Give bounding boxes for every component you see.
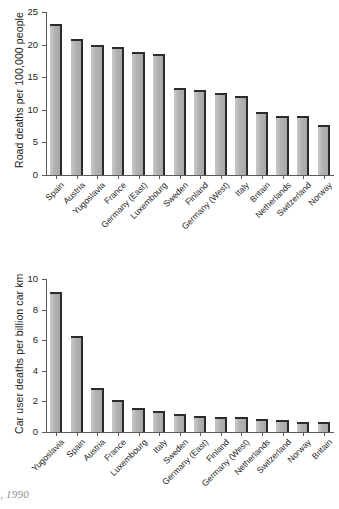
y-axis-tick-label: 0 (12, 426, 38, 437)
x-axis-tick (324, 176, 325, 179)
x-axis-tick (324, 433, 325, 436)
bar (256, 112, 268, 175)
bar (318, 422, 330, 432)
bar (256, 419, 268, 432)
y-axis-tick (42, 310, 46, 311)
y-axis-tick-label: 20 (12, 39, 38, 50)
bar (297, 116, 309, 175)
figure-two-bar-charts: Road deaths per 100,000 people0510152025… (0, 0, 339, 509)
x-axis-tick (159, 176, 160, 179)
bar (153, 54, 165, 175)
figure-caption: eaths, 1990 (0, 488, 29, 500)
y-axis-tick-label: 8 (12, 304, 38, 315)
plot-area-top: Road deaths per 100,000 people0510152025… (0, 0, 339, 250)
y-axis-tick-label: 4 (12, 365, 38, 376)
bar (174, 88, 186, 175)
bar (50, 292, 62, 432)
x-axis-tick (283, 433, 284, 436)
bar (112, 47, 124, 175)
y-axis-tick (42, 175, 46, 176)
bar (50, 24, 62, 175)
y-axis-tick-label: 15 (12, 71, 38, 82)
y-axis-title: Car user deaths per billion car km (13, 274, 25, 434)
bar (91, 388, 103, 432)
x-axis-tick (56, 433, 57, 436)
y-axis-tick (42, 279, 46, 280)
bar (235, 96, 247, 175)
x-axis-tick (180, 433, 181, 436)
bar (71, 39, 83, 175)
x-axis-tick (200, 433, 201, 436)
bar (91, 45, 103, 175)
bar (174, 414, 186, 432)
x-axis-tick (77, 176, 78, 179)
y-axis-tick (42, 142, 46, 143)
bar (194, 416, 206, 432)
y-axis-tick-label: 10 (12, 273, 38, 284)
x-axis-tick (56, 176, 57, 179)
x-axis-tick (241, 433, 242, 436)
x-axis-tick (180, 176, 181, 179)
x-axis-tick (283, 176, 284, 179)
y-axis-tick-label: 2 (12, 395, 38, 406)
bar (112, 400, 124, 432)
x-axis-category-label-text: Yugoslavia (30, 437, 66, 473)
x-axis-tick (97, 433, 98, 436)
x-axis-tick (139, 176, 140, 179)
plot-area-bottom: Car user deaths per billion car km024681… (0, 258, 339, 480)
x-axis-tick (221, 176, 222, 179)
bar (215, 417, 227, 432)
bar (71, 336, 83, 432)
x-axis-tick (200, 176, 201, 179)
x-axis-tick (241, 176, 242, 179)
x-axis-tick (118, 176, 119, 179)
bar (276, 116, 288, 175)
x-axis-tick (221, 433, 222, 436)
y-axis-tick (42, 12, 46, 13)
bar (132, 52, 144, 175)
y-axis-tick (42, 432, 46, 433)
y-axis-tick (42, 371, 46, 372)
y-axis-tick-label: 10 (12, 104, 38, 115)
x-axis-tick (303, 176, 304, 179)
bar (153, 411, 165, 432)
x-axis-tick (118, 433, 119, 436)
bar (132, 408, 144, 432)
chart-car-user-deaths-per-car-km: Car user deaths per billion car km024681… (0, 258, 339, 480)
y-axis-tick (42, 77, 46, 78)
chart-road-deaths-per-population: Road deaths per 100,000 people0510152025… (0, 0, 339, 250)
y-axis-line (46, 12, 47, 176)
x-axis-tick (139, 433, 140, 436)
bar (297, 422, 309, 432)
y-axis-tick (42, 401, 46, 402)
x-axis-tick (159, 433, 160, 436)
y-axis-tick-label: 25 (12, 6, 38, 17)
bar (215, 93, 227, 175)
y-axis-tick (42, 110, 46, 111)
y-axis-line (46, 279, 47, 433)
x-axis-tick (303, 433, 304, 436)
y-axis-tick (42, 340, 46, 341)
y-axis-tick-label: 5 (12, 136, 38, 147)
y-axis-tick-label: 6 (12, 334, 38, 345)
bar (276, 420, 288, 432)
x-axis-tick (77, 433, 78, 436)
bar (194, 90, 206, 175)
y-axis-tick-label: 0 (12, 169, 38, 180)
bar (235, 417, 247, 432)
y-axis-tick (42, 45, 46, 46)
x-axis-tick (262, 433, 263, 436)
x-axis-tick (97, 176, 98, 179)
x-axis-tick (262, 176, 263, 179)
bar (318, 125, 330, 175)
